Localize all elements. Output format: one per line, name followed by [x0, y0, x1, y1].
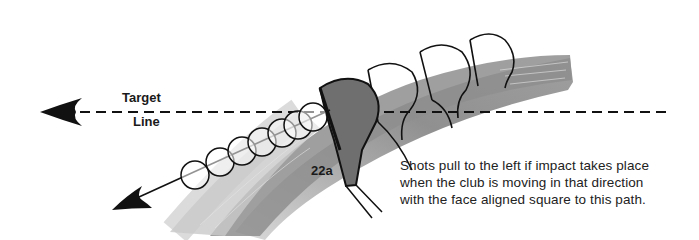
ball-1	[181, 161, 209, 189]
target-label: Target	[122, 90, 161, 105]
line-label: Line	[133, 114, 160, 129]
caption-line-3: with the face aligned square to this pat…	[400, 191, 649, 208]
club-shaft	[346, 185, 382, 218]
target-line-arrowhead-icon	[40, 98, 82, 126]
ball-path-arrowhead-icon	[112, 186, 152, 210]
caption-line-1: Shots pull to the left if impact takes p…	[400, 157, 649, 174]
figure-number-label: 22a	[311, 163, 333, 178]
figure-caption: Shots pull to the left if impact takes p…	[400, 157, 649, 208]
golf-swing-diagram: Target Line 22a Shots pull to the left i…	[0, 0, 699, 240]
caption-line-2: when the club is moving in that directio…	[400, 174, 649, 191]
ball-7	[299, 103, 327, 131]
